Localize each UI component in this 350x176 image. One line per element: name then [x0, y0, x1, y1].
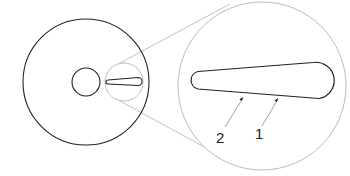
zoomed-view-circle: [178, 2, 346, 170]
label-1: 1: [255, 125, 263, 142]
diagram-canvas: 2 1: [0, 0, 350, 176]
label-2: 2: [216, 129, 224, 146]
outer-disc: [23, 19, 149, 145]
magnifier-region: [105, 63, 143, 101]
small-slot: [106, 78, 142, 86]
inner-hub: [72, 68, 100, 96]
